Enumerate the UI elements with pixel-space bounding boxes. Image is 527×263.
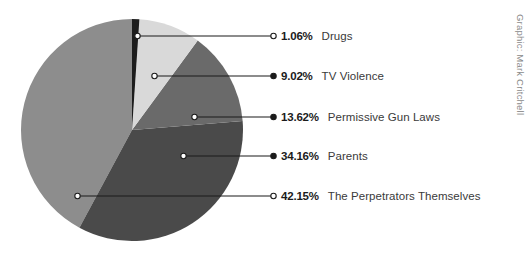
pie-label-permissive-gun-laws-percent: 13.62% — [281, 111, 319, 123]
pie-label-permissive-gun-laws-name: Permissive Gun Laws — [328, 111, 440, 123]
pie-label-the-perpetrators-themselves-name: The Perpetrators Themselves — [328, 190, 481, 202]
pie-label-drugs-percent: 1.06% — [281, 30, 313, 42]
pie-chart: 1.06% Drugs 9.02% TV Violence 13.62% Per… — [0, 0, 527, 263]
pie-label-permissive-gun-laws[interactable]: 13.62% Permissive Gun Laws — [281, 109, 440, 125]
pie-label-drugs[interactable]: 1.06% Drugs — [281, 28, 353, 44]
pie-label-drugs-name: Drugs — [322, 30, 353, 42]
pie-label-tv-violence-name: TV Violence — [322, 70, 384, 82]
graphic-credit: Graphic: Mark Critchell — [515, 14, 526, 115]
pie-label-parents-percent: 34.16% — [281, 150, 319, 162]
pie-label-tv-violence[interactable]: 9.02% TV Violence — [281, 68, 384, 84]
pie-label-parents-name: Parents — [328, 150, 368, 162]
pie-label-parents[interactable]: 34.16% Parents — [281, 148, 368, 164]
pie-chart-graphic — [0, 0, 527, 263]
pie-label-the-perpetrators-themselves[interactable]: 42.15% The Perpetrators Themselves — [281, 188, 480, 204]
pie-label-tv-violence-percent: 9.02% — [281, 70, 313, 82]
pie-label-the-perpetrators-themselves-percent: 42.15% — [281, 190, 319, 202]
